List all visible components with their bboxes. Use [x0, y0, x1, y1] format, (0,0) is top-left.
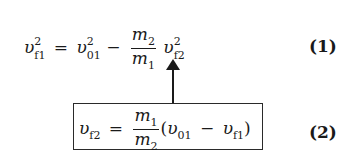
arrow-shaft — [172, 68, 174, 104]
equation-2: υf2 = m1 m2 (υ01 − υf1) — [79, 107, 251, 153]
equals-sign: = — [109, 118, 123, 138]
mass-ratio-fraction: m2 m1 — [131, 26, 156, 72]
minus-sign: − — [106, 37, 120, 57]
fraction-denominator: m2 — [133, 130, 158, 153]
fraction-denominator: m1 — [131, 49, 156, 72]
mass-ratio-fraction: m1 m2 — [133, 107, 158, 153]
v-f2-var: υ — [163, 37, 173, 57]
v-01-subscript: 01 — [178, 129, 192, 142]
fraction-numerator: m2 — [131, 26, 156, 49]
equation-1-number: (1) — [309, 36, 337, 56]
v-f1-var: υ — [24, 37, 34, 57]
v-01-var: υ — [167, 118, 177, 138]
v-01-scripts: 201 — [87, 40, 98, 57]
v-01-var: υ — [76, 37, 86, 57]
minus-sign: − — [200, 118, 214, 138]
v-f1-subscript: f1 — [233, 129, 244, 142]
v-f2-subscript: f2 — [89, 129, 100, 142]
v-f2-scripts: 2f2 — [174, 40, 185, 57]
fraction-numerator: m1 — [133, 107, 158, 130]
v-f2-var: υ — [79, 118, 89, 138]
right-paren: ) — [244, 118, 251, 138]
equation-1: υ2f1 = υ201 − m2 m1 υ2f2 — [24, 26, 185, 72]
v-f1-var: υ — [223, 118, 233, 138]
equals-sign: = — [54, 37, 68, 57]
v-f1-scripts: 2f1 — [34, 40, 45, 57]
equation-2-number: (2) — [309, 122, 337, 142]
